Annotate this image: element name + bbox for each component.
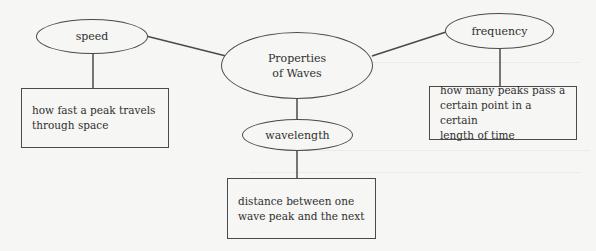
connector-speed-center (146, 36, 226, 56)
definition-speed-line-1: how fast a peak travels (32, 103, 155, 118)
node-center-properties-of-waves: Properties of Waves (221, 32, 373, 99)
definition-box-speed: how fast a peak travels through space (21, 88, 169, 148)
center-label-line-2: of Waves (268, 66, 326, 81)
concept-map: speed how fast a peak travels through sp… (0, 0, 596, 251)
node-speed: speed (36, 19, 148, 54)
node-speed-label: speed (76, 29, 109, 44)
connector-center-frequency (372, 32, 446, 56)
definition-box-frequency: how many peaks pass a certain point in a… (429, 86, 577, 140)
center-label-line-1: Properties (268, 51, 326, 66)
definition-wavelength-line-2: wave peak and the next (238, 209, 364, 224)
definition-frequency-line-3: length of time (440, 128, 572, 143)
node-wavelength-label: wavelength (265, 128, 329, 143)
definition-wavelength-line-1: distance between one (238, 194, 364, 209)
node-frequency-label: frequency (472, 24, 528, 39)
node-wavelength: wavelength (242, 119, 353, 151)
definition-box-wavelength: distance between one wave peak and the n… (227, 178, 376, 239)
node-frequency: frequency (445, 13, 554, 49)
definition-speed-line-2: through space (32, 118, 155, 133)
definition-frequency-line-2: certain point in a certain (440, 98, 572, 128)
definition-frequency-line-1: how many peaks pass a (440, 83, 572, 98)
